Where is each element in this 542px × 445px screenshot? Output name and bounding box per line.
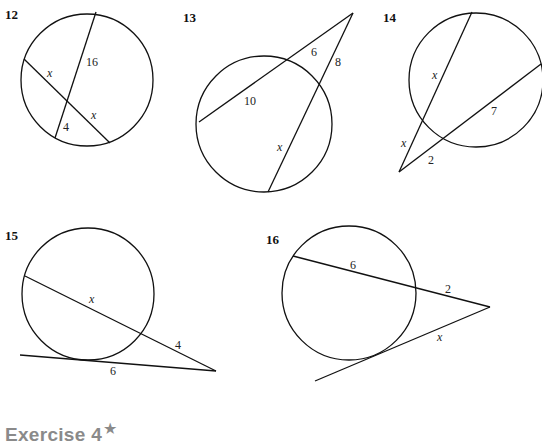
exercise-number: 15 [5, 228, 19, 243]
exercise-15-figure: 15 x 4 6 [5, 228, 216, 378]
exercise-14-figure: 14 x x 7 2 [383, 10, 542, 172]
circle [282, 226, 416, 360]
segment-label: 4 [175, 338, 181, 352]
circle [21, 14, 153, 146]
exercise-number: 16 [266, 232, 280, 247]
circle [409, 13, 542, 147]
exercise-number: 13 [183, 10, 197, 25]
chord [55, 12, 96, 138]
segment-label: x [436, 330, 443, 344]
secant [268, 13, 353, 192]
secant [293, 256, 490, 307]
segment-label: x [88, 292, 95, 306]
tangent [315, 307, 490, 381]
segment-label: 4 [63, 120, 69, 134]
exercise-13-figure: 13 6 8 10 x [183, 10, 353, 192]
segment-label: x [431, 68, 438, 82]
section-heading: Exercise 4★ [5, 424, 118, 445]
segment-label: 10 [244, 94, 256, 108]
secant [25, 276, 216, 371]
exercise-number: 12 [5, 7, 18, 22]
segment-label: 6 [110, 364, 116, 378]
segment-label: 2 [428, 153, 434, 167]
segment-label: 8 [335, 55, 341, 69]
segment-label: 2 [445, 282, 451, 296]
exercise-12-figure: 12 x 16 4 x [5, 7, 153, 146]
segment-label: x [46, 66, 53, 80]
circle [22, 228, 154, 360]
segment-label: 6 [350, 258, 356, 272]
segment-label: 6 [311, 45, 317, 59]
star-icon: ★ [103, 420, 118, 437]
section-heading-text: Exercise 4 [5, 424, 102, 445]
segment-label: x [90, 108, 97, 122]
segment-label: 16 [86, 55, 98, 69]
exercise-number: 14 [383, 10, 397, 25]
tangent [20, 355, 216, 371]
segment-label: x [400, 136, 407, 150]
segment-label: 7 [491, 104, 497, 118]
exercise-16-figure: 16 6 2 x [266, 226, 490, 381]
segment-label: x [276, 140, 283, 154]
